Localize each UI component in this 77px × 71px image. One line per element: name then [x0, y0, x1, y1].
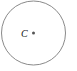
center-label: C: [21, 28, 28, 39]
circle-diagram: C: [0, 0, 77, 71]
center-point: [32, 32, 35, 35]
